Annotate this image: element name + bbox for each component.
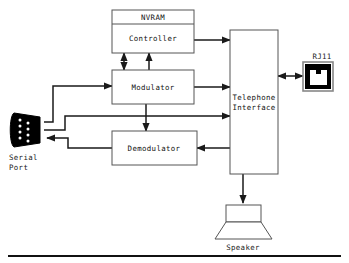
modulator-label: Modulator [131, 83, 174, 92]
nvram-label: NVRAM [141, 13, 165, 22]
block-telephone-interface[interactable]: Telephone Interface [230, 30, 278, 174]
rj11-connector[interactable]: RJ11 [303, 52, 333, 91]
serial-port-connector[interactable]: Serial Port [9, 113, 40, 172]
rj11-label: RJ11 [312, 52, 331, 61]
wire-demodulator-to-serial [47, 138, 112, 148]
block-demodulator[interactable]: Demodulator [112, 131, 197, 165]
speaker-label: Speaker [226, 243, 260, 252]
telephone-interface-label-line1: Telephone [232, 93, 275, 102]
wire-serial-to-telephone [44, 116, 230, 130]
block-modulator[interactable]: Modulator [112, 70, 194, 104]
telephone-interface-box [230, 30, 278, 174]
serial-port-label-line1: Serial [9, 153, 38, 162]
speaker-body [226, 205, 261, 222]
serial-port-body [10, 113, 40, 147]
modem-block-diagram: NVRAM Controller Modulator Demodulator T… [0, 0, 349, 263]
block-controller[interactable]: NVRAM Controller [112, 10, 194, 53]
telephone-interface-label-line2: Interface [232, 103, 275, 112]
speaker-cone [215, 222, 272, 239]
serial-port-label-line2: Port [9, 163, 28, 172]
demodulator-label: Demodulator [128, 144, 181, 153]
speaker[interactable]: Speaker [215, 205, 272, 252]
diagram-page: NVRAM Controller Modulator Demodulator T… [0, 0, 349, 263]
controller-label: Controller [129, 34, 177, 43]
